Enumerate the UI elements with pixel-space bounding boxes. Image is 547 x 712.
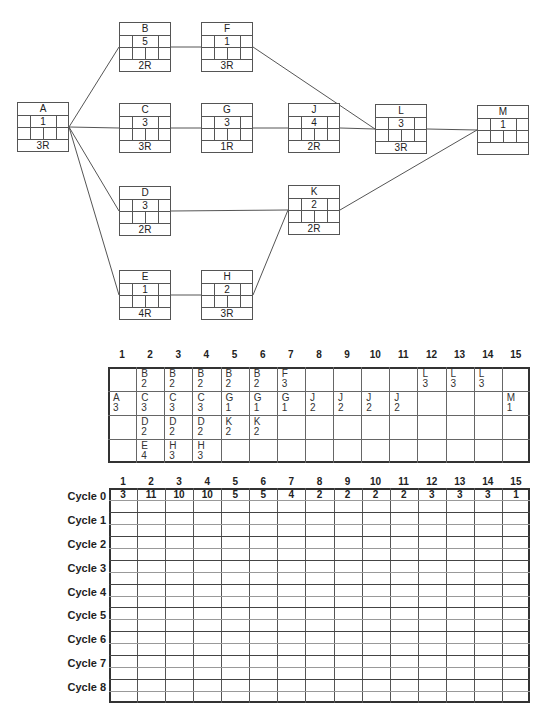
network-edges [0, 0, 547, 340]
schedule-cell-value: 2 [169, 427, 175, 437]
edge-a-e [69, 127, 119, 295]
cycle-col-header: 3 [165, 476, 193, 487]
schedule-cell-value: 2 [394, 403, 400, 413]
grid-line [109, 643, 530, 644]
schedule-col-header: 11 [389, 349, 417, 360]
schedule-cell-value: 2 [366, 403, 372, 413]
activity-node-h: H23R [201, 270, 253, 320]
node-resources: 3R [376, 142, 426, 154]
schedule-col-header: 15 [502, 349, 530, 360]
schedule-cell-value: 2 [141, 427, 147, 437]
node-duration: 3 [376, 118, 426, 130]
schedule-col-header: 1 [108, 349, 136, 360]
cycle-col-header: 6 [249, 476, 277, 487]
grid-line [109, 631, 530, 632]
schedule-cell-value: 3 [422, 379, 428, 389]
node-id: D [120, 187, 170, 199]
schedule-col-header: 8 [305, 349, 333, 360]
schedule-cell-value: 2 [197, 427, 203, 437]
activity-node-f: F13R [201, 22, 253, 72]
schedule-col-header: 7 [277, 349, 305, 360]
schedule-cell-value: 3 [197, 403, 203, 413]
node-duration: 3 [120, 117, 170, 129]
schedule-cell-value: 2 [310, 403, 316, 413]
node-resources: 2R [120, 224, 170, 236]
schedule-cell-value: 1 [226, 403, 232, 413]
node-duration: 3 [202, 117, 252, 129]
cycle-col-header: 4 [193, 476, 221, 487]
grid-line [109, 548, 530, 549]
node-duration: 4 [289, 117, 339, 129]
schedule-cell-value: 2 [254, 379, 260, 389]
node-id: M [478, 106, 528, 118]
edge-h-k [253, 210, 288, 295]
schedule-cell-value: 2 [141, 379, 147, 389]
grid-line [109, 512, 530, 513]
schedule-cell-value: 3 [197, 451, 203, 461]
cycle0-value: 10 [193, 489, 221, 500]
cycle-col-header: 5 [221, 476, 249, 487]
schedule-col-header: 2 [136, 349, 164, 360]
activity-node-b: B52R [119, 22, 171, 72]
grid-line [109, 596, 530, 597]
schedule-cell-value: 3 [479, 379, 485, 389]
node-id: G [202, 104, 252, 116]
cycle0-value: 3 [109, 489, 137, 500]
schedule-cell-value: 2 [169, 379, 175, 389]
node-duration: 1 [478, 119, 528, 131]
node-resources: 4R [120, 308, 170, 320]
activity-node-c: C33R [119, 103, 171, 153]
schedule-cell-value: 1 [282, 403, 288, 413]
edge-j-l [340, 128, 375, 129]
cycle-label: Cycle 7 [40, 657, 106, 669]
node-resources: 2R [289, 223, 339, 235]
cycle0-value: 5 [249, 489, 277, 500]
edge-a-c [69, 127, 119, 128]
schedule-cell-value: 3 [141, 403, 147, 413]
node-id: B [120, 23, 170, 35]
schedule-col-header: 14 [474, 349, 502, 360]
activity-node-j: J42R [288, 103, 340, 153]
cycle0-value: 11 [137, 489, 165, 500]
node-resources: 2R [289, 141, 339, 153]
grid-line [109, 619, 530, 620]
node-resources: 1R [202, 141, 252, 153]
node-duration: 2 [202, 284, 252, 296]
cycle-col-header: 14 [474, 476, 502, 487]
cycle-col-header: 8 [305, 476, 333, 487]
cycle0-value: 3 [418, 489, 446, 500]
activity-node-a: A13R [17, 102, 69, 152]
schedule-col-header: 3 [164, 349, 192, 360]
activity-node-m: M1 [477, 105, 529, 155]
node-duration: 1 [18, 116, 68, 128]
schedule-cell-value: 2 [254, 427, 260, 437]
node-duration: 2 [289, 199, 339, 211]
cycle-col-header: 11 [390, 476, 418, 487]
schedule-col-header: 10 [361, 349, 389, 360]
cycle-col-header: 15 [502, 476, 530, 487]
schedule-col-header: 9 [333, 349, 361, 360]
schedule-col-header: 5 [221, 349, 249, 360]
grid-line [109, 500, 530, 501]
edge-d-k [171, 210, 288, 211]
schedule-col-header: 12 [417, 349, 445, 360]
schedule-cell-value: 3 [169, 451, 175, 461]
node-duration: 1 [120, 284, 170, 296]
grid-line [109, 667, 530, 668]
cycle-col-header: 7 [277, 476, 305, 487]
edge-a-b [69, 47, 119, 127]
node-resources: 2R [120, 60, 170, 72]
edge-a-d [69, 127, 119, 211]
schedule-cell-value: 3 [113, 403, 119, 413]
node-resources: 3R [202, 60, 252, 72]
grid-line [109, 536, 530, 537]
node-id: J [289, 104, 339, 116]
schedule-cell-value: 1 [254, 403, 260, 413]
schedule-cell-value: 3 [169, 403, 175, 413]
schedule-cell-value: 3 [282, 379, 288, 389]
grid-line [109, 524, 530, 525]
grid-line [109, 572, 530, 573]
schedule-cell-value: 1 [507, 403, 513, 413]
cycle0-value: 2 [390, 489, 418, 500]
node-id: H [202, 271, 252, 283]
